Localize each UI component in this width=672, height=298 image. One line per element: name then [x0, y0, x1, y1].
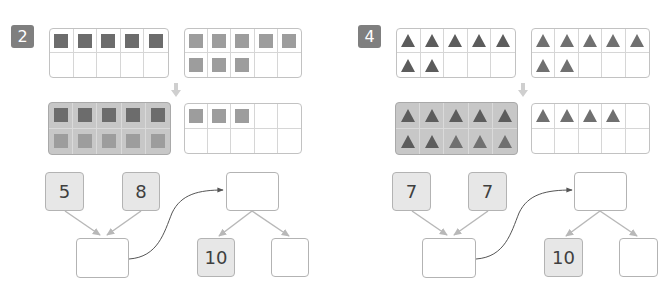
- frame-cell: [185, 53, 208, 77]
- frame-cell: [50, 29, 74, 53]
- frame-cell: [208, 104, 231, 129]
- square-counter-icon: [54, 34, 68, 48]
- frame-cell: [231, 29, 254, 53]
- triangle-counter-icon: [472, 34, 486, 47]
- frame-cell: [579, 29, 602, 53]
- frame-cell: [491, 29, 515, 53]
- frame-cell: [602, 104, 625, 129]
- frame-cell: [468, 53, 492, 77]
- frame-cell: [396, 103, 420, 129]
- frame-cell: [121, 29, 145, 53]
- frame-cell: [121, 53, 145, 77]
- triangle-counter-icon: [560, 109, 574, 122]
- square-counter-icon: [126, 108, 140, 122]
- square-counter-icon: [189, 109, 203, 123]
- part-tens-box: 10: [544, 238, 583, 277]
- frame-cell: [555, 104, 578, 129]
- part-ones-answer-box[interactable]: [619, 238, 658, 277]
- frame-cell: [73, 103, 97, 129]
- square-counter-icon: [235, 34, 249, 48]
- total-answer-box[interactable]: [574, 172, 627, 211]
- frame-cell: [602, 129, 625, 154]
- frame-cell: [493, 129, 517, 155]
- square-counter-icon: [212, 58, 226, 72]
- part-ones-answer-box[interactable]: [271, 238, 309, 277]
- ten-frame-top-right: [531, 28, 650, 78]
- sum-answer-box[interactable]: [76, 238, 129, 278]
- frame-cell: [122, 129, 146, 155]
- sum-answer-box[interactable]: [422, 238, 476, 278]
- frame-cell: [278, 104, 301, 129]
- total-answer-box[interactable]: [226, 172, 279, 211]
- frame-cell: [626, 53, 649, 77]
- frame-cell: [420, 129, 444, 155]
- addend-1-box: 7: [392, 172, 431, 211]
- triangle-counter-icon: [401, 34, 415, 47]
- square-counter-icon: [102, 108, 116, 122]
- frame-cell: [491, 53, 515, 77]
- frame-cell: [532, 53, 555, 77]
- triangle-counter-icon: [401, 59, 415, 72]
- frame-cell: [555, 29, 578, 53]
- triangle-counter-icon: [425, 59, 439, 72]
- frame-cell: [626, 29, 649, 53]
- frame-cell: [144, 29, 168, 53]
- frame-cell: [469, 129, 493, 155]
- frame-cell: [493, 103, 517, 129]
- problem-4: 4 7 7 10: [347, 0, 672, 298]
- problem-number-badge: 4: [358, 25, 381, 48]
- frame-cell: [602, 53, 625, 77]
- frame-cell: [231, 53, 254, 77]
- frame-cell: [397, 29, 421, 53]
- frame-cell: [97, 29, 121, 53]
- triangle-counter-icon: [606, 34, 620, 47]
- problem-2: 2 5 8 10: [0, 0, 330, 298]
- triangle-counter-icon: [536, 59, 550, 72]
- frame-cell: [579, 53, 602, 77]
- triangle-counter-icon: [425, 135, 439, 148]
- frame-cell: [444, 29, 468, 53]
- frame-cell: [468, 29, 492, 53]
- ten-frame-top-left: [49, 28, 169, 78]
- frame-cell: [532, 104, 555, 129]
- frame-cell: [397, 53, 421, 77]
- triangle-counter-icon: [498, 109, 512, 122]
- square-counter-icon: [151, 134, 165, 148]
- frame-cell: [421, 29, 445, 53]
- ten-frame-top-right: [184, 28, 302, 78]
- square-counter-icon: [102, 134, 116, 148]
- frame-cell: [97, 129, 121, 155]
- square-counter-icon: [235, 58, 249, 72]
- frame-cell: [278, 29, 301, 53]
- triangle-counter-icon: [401, 109, 415, 122]
- square-counter-icon: [78, 134, 92, 148]
- down-arrow-icon: [518, 83, 528, 97]
- frame-cell: [50, 53, 74, 77]
- triangle-counter-icon: [449, 109, 463, 122]
- triangle-counter-icon: [536, 109, 550, 122]
- ten-frame-remainder: [531, 103, 650, 154]
- triangle-counter-icon: [425, 109, 439, 122]
- triangle-counter-icon: [536, 34, 550, 47]
- square-counter-icon: [212, 109, 226, 123]
- frame-cell: [208, 29, 231, 53]
- frame-cell: [122, 103, 146, 129]
- triangle-counter-icon: [473, 109, 487, 122]
- frame-cell: [255, 104, 278, 129]
- triangle-counter-icon: [401, 135, 415, 148]
- frame-cell: [185, 129, 208, 154]
- part-tens-box: 10: [197, 238, 235, 277]
- frame-cell: [255, 129, 278, 154]
- frame-cell: [144, 53, 168, 77]
- square-counter-icon: [235, 109, 249, 123]
- frame-cell: [469, 103, 493, 129]
- triangle-counter-icon: [448, 34, 462, 47]
- frame-cell: [555, 53, 578, 77]
- frame-cell: [231, 104, 254, 129]
- down-arrow-icon: [171, 83, 181, 97]
- square-counter-icon: [126, 134, 140, 148]
- frame-cell: [255, 53, 278, 77]
- frame-cell: [579, 104, 602, 129]
- triangle-counter-icon: [498, 135, 512, 148]
- frame-cell: [532, 29, 555, 53]
